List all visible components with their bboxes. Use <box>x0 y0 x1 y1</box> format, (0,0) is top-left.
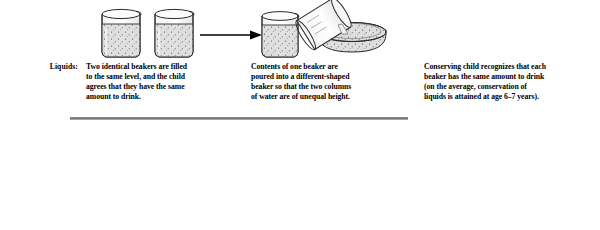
beaker-a <box>102 9 141 57</box>
pouring-illustration <box>256 0 408 62</box>
beaker-b <box>155 9 194 57</box>
transformation-arrow-liquids <box>200 28 262 42</box>
caption-line: amount to drink. <box>86 92 251 102</box>
category-label-line: Liquids: <box>50 62 78 71</box>
caption-line: Conserving child recognizes that each <box>424 62 599 72</box>
conservation-tasks-figure: Liquids: <box>0 0 600 230</box>
row-divider <box>70 117 408 120</box>
caption-line: to the same level, and the child <box>86 72 251 82</box>
row-mass: Mass (continuous substance): <box>0 122 600 230</box>
caption-line: beaker has the same amount to drink <box>424 72 599 82</box>
caption-liquids-step-2: Contents of one beaker are poured into a… <box>251 62 416 102</box>
two-identical-beakers-illustration <box>96 2 208 62</box>
caption-line: beaker so that the two columns <box>251 82 416 92</box>
caption-line: poured into a different-shaped <box>251 72 416 82</box>
caption-line: (on the average, conservation of <box>424 82 599 92</box>
caption-line: of water are of unequal height. <box>251 92 416 102</box>
caption-line: liquids is attained at age 6–7 years). <box>424 92 599 102</box>
row-liquids: Liquids: <box>0 0 600 115</box>
category-label-liquids: Liquids: <box>0 62 78 72</box>
caption-liquids-conclusion: Conserving child recognizes that each be… <box>424 62 599 102</box>
caption-line: agrees that they have the same <box>86 82 251 92</box>
beaker-c <box>262 12 299 57</box>
caption-line: Contents of one beaker are <box>251 62 416 72</box>
caption-liquids-step-1: Two identical beakers are filled to the … <box>86 62 251 102</box>
caption-line: Two identical beakers are filled <box>86 62 251 72</box>
